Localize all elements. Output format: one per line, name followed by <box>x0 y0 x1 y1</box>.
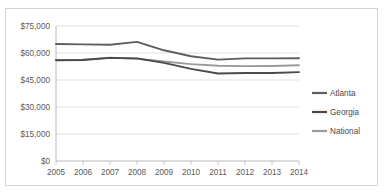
x-axis-tick-label: 2006 <box>74 168 93 177</box>
line-chart: $0$15,000$30,000$45,000$60,000$75,000200… <box>6 9 379 187</box>
y-axis-tick-label: $60,000 <box>20 49 50 58</box>
x-axis-tick-label: 2013 <box>263 168 282 177</box>
x-axis-tick-label: 2008 <box>128 168 147 177</box>
y-axis-labels: $0$15,000$30,000$45,000$60,000$75,000 <box>20 22 50 166</box>
chart-legend: AtlantaGeorgiaNational <box>312 89 360 136</box>
series-group <box>56 42 299 74</box>
x-axis-tick-label: 2009 <box>155 168 174 177</box>
legend-label-georgia: Georgia <box>330 108 360 117</box>
x-axis-tick-label: 2010 <box>182 168 201 177</box>
x-axis-labels: 2005200620072008200920102011201220132014 <box>47 161 309 177</box>
y-gridlines <box>56 26 299 134</box>
x-axis-tick-label: 2012 <box>236 168 255 177</box>
x-axis-tick-label: 2011 <box>209 168 227 177</box>
legend-label-atlanta: Atlanta <box>330 89 356 98</box>
y-axis-tick-label: $45,000 <box>20 76 50 85</box>
y-axis-tick-label: $15,000 <box>20 130 50 139</box>
y-axis-tick-label: $0 <box>41 157 51 166</box>
series-line-atlanta <box>56 42 299 60</box>
y-axis-tick-label: $30,000 <box>20 103 50 112</box>
y-axis-tick-label: $75,000 <box>20 22 50 31</box>
legend-label-national: National <box>330 127 360 136</box>
x-axis-tick-label: 2005 <box>47 168 66 177</box>
chart-plot-area: $0$15,000$30,000$45,000$60,000$75,000200… <box>6 9 379 187</box>
x-axis-tick-label: 2007 <box>101 168 120 177</box>
x-axis-tick-label: 2014 <box>290 168 309 177</box>
chart-frame: $0$15,000$30,000$45,000$60,000$75,000200… <box>5 8 378 186</box>
